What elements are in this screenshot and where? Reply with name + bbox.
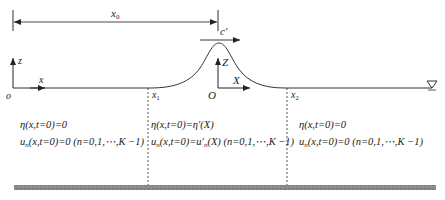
region-left-conditions: η(x,t=0)=0 un(x,t=0)=0 (n=0,1,⋯,K −1) [20,119,144,149]
global-axes: z x o [6,55,45,101]
right-eta-condition: η(x,t=0)=0 [299,119,347,131]
x0-label: x0 [110,7,120,21]
middle-u-condition: un(x,t=0)=u′n(X) (n=0,1,⋯,K −1) [151,136,295,149]
moving-origin-label: O [208,89,216,101]
origin-label: o [6,90,11,101]
x0-dimension: x0 [13,7,218,31]
X-axis-label: X [232,74,241,86]
x2-label: x2 [290,89,299,101]
wave-diagram: x0 c′ z x o Z X O x1 x2 η(x,t=0)=0 un( [0,0,445,200]
water-level-icon [427,81,437,90]
wave-speed-label: c′ [220,25,228,37]
x1-label: x1 [151,89,160,101]
x-axis-label: x [38,74,44,85]
left-eta-condition: η(x,t=0)=0 [20,119,68,131]
sea-bed [14,185,436,190]
Z-axis-label: Z [222,56,229,68]
z-axis-label: z [17,55,22,66]
left-u-condition: un(x,t=0)=0 (n=0,1,⋯,K −1) [20,136,144,149]
wave-speed-indicator: c′ [200,25,240,40]
middle-eta-condition: η(x,t=0)=η′(X) [151,119,214,131]
moving-axes: Z X O [208,56,250,101]
region-right-conditions: η(x,t=0)=0 un(x,t=0)=0 (n=0,1,⋯,K −1) [299,119,423,149]
right-u-condition: un(x,t=0)=0 (n=0,1,⋯,K −1) [299,136,423,149]
region-middle-conditions: η(x,t=0)=η′(X) un(x,t=0)=u′n(X) (n=0,1,⋯… [151,119,295,149]
